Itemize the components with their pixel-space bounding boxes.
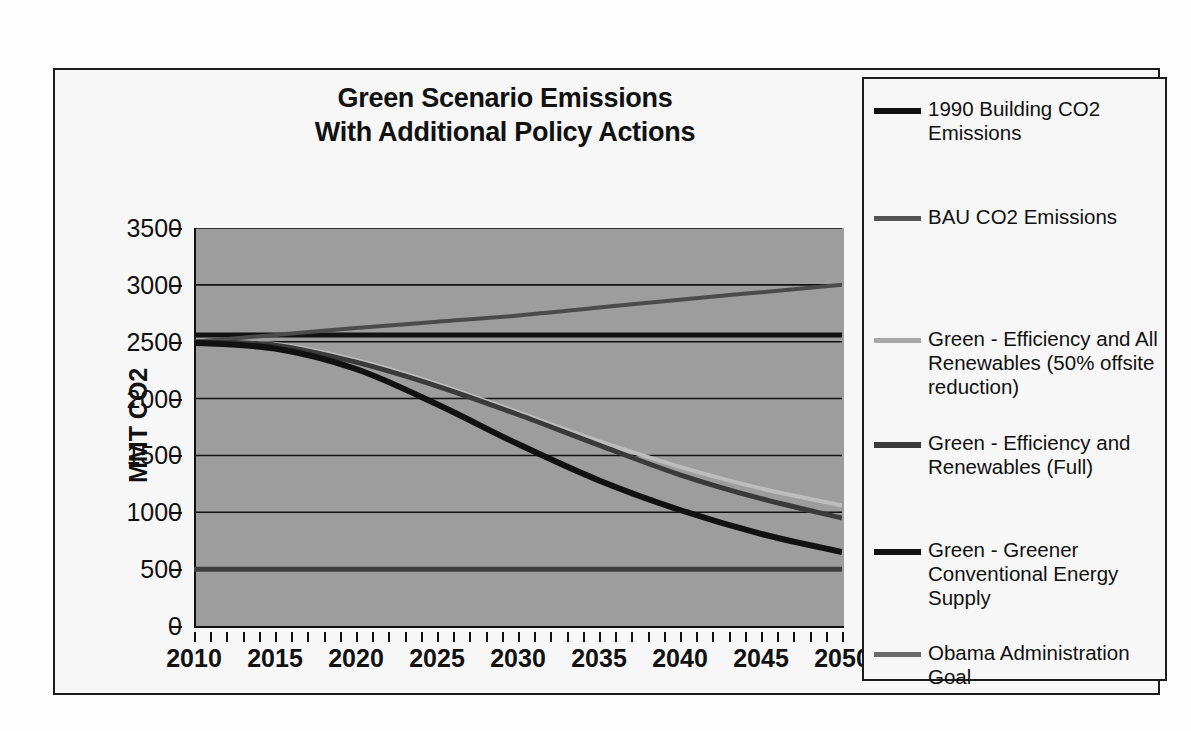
chart-title-line-2: With Additional Policy Actions xyxy=(205,116,805,150)
legend-item-2[interactable]: Green - Efficiency and All Renewables (5… xyxy=(874,327,1162,398)
x-minor-tick xyxy=(729,632,731,642)
y-tick-mark-2000 xyxy=(171,399,182,401)
x-minor-tick xyxy=(534,632,536,642)
y-tick-mark-1500 xyxy=(171,455,182,457)
y-tick-mark-2500 xyxy=(171,342,182,344)
x-minor-tick xyxy=(291,632,293,642)
x-minor-tick xyxy=(340,632,342,642)
x-minor-tick xyxy=(243,632,245,642)
chart-title-line-1: Green Scenario Emissions xyxy=(205,82,805,116)
y-tick-label-2000: 2000 xyxy=(92,384,182,413)
x-minor-tick xyxy=(599,632,601,642)
x-tick-label-2040: 2040 xyxy=(652,644,708,673)
y-tick-label-1000: 1000 xyxy=(92,498,182,527)
x-tick-label-2025: 2025 xyxy=(409,644,465,673)
x-minor-tick xyxy=(194,632,196,642)
legend-line-swatch-icon xyxy=(874,549,921,555)
y-tick-label-3000: 3000 xyxy=(92,270,182,299)
x-tick-label-2045: 2045 xyxy=(733,644,789,673)
x-tick-label-2030: 2030 xyxy=(490,644,546,673)
y-tick-label-3500: 3500 xyxy=(92,214,182,243)
legend-item-1[interactable]: BAU CO2 Emissions xyxy=(874,205,1162,229)
series-line xyxy=(194,343,842,552)
x-minor-tick xyxy=(648,632,650,642)
y-tick-label-1500: 1500 xyxy=(92,441,182,470)
x-minor-tick xyxy=(680,632,682,642)
legend-line-swatch-icon xyxy=(874,216,921,221)
x-minor-tick xyxy=(842,632,844,642)
y-tick-label-0: 0 xyxy=(92,612,182,641)
y-tick-label-2500: 2500 xyxy=(92,327,182,356)
legend-item-label: Green - Greener Conventional Energy Supp… xyxy=(928,538,1162,609)
y-tick-label-500: 500 xyxy=(92,555,182,584)
x-minor-tick xyxy=(372,632,374,642)
legend-item-label: 1990 Building CO2 Emissions xyxy=(928,97,1162,145)
series-line xyxy=(194,342,842,518)
x-minor-tick xyxy=(615,632,617,642)
legend-line-swatch-icon xyxy=(874,338,921,343)
x-tick-label-2015: 2015 xyxy=(247,644,303,673)
x-minor-tick xyxy=(469,632,471,642)
x-minor-tick xyxy=(405,632,407,642)
x-minor-tick xyxy=(631,632,633,642)
x-minor-tick xyxy=(259,632,261,642)
x-minor-tick xyxy=(826,632,828,642)
x-minor-tick xyxy=(696,632,698,642)
plot-series-svg xyxy=(194,228,842,626)
legend-item-label: Obama Administration Goal xyxy=(928,641,1162,689)
chart-legend: 1990 Building CO2 EmissionsBAU CO2 Emiss… xyxy=(862,77,1167,681)
x-minor-tick xyxy=(453,632,455,642)
series-line xyxy=(194,342,842,506)
chart-title: Green Scenario Emissions With Additional… xyxy=(205,82,805,150)
legend-line-swatch-icon xyxy=(874,442,921,448)
legend-line-swatch-icon xyxy=(874,652,921,657)
x-minor-tick xyxy=(810,632,812,642)
y-tick-mark-0 xyxy=(171,626,182,628)
x-minor-tick xyxy=(324,632,326,642)
x-minor-tick xyxy=(210,632,212,642)
x-minor-tick xyxy=(421,632,423,642)
x-minor-tick xyxy=(583,632,585,642)
x-minor-tick xyxy=(664,632,666,642)
x-minor-tick xyxy=(275,632,277,642)
x-tick-label-2035: 2035 xyxy=(571,644,627,673)
legend-line-swatch-icon xyxy=(874,108,921,114)
x-minor-tick xyxy=(388,632,390,642)
legend-item-3[interactable]: Green - Efficiency and Renewables (Full) xyxy=(874,431,1162,479)
x-minor-tick xyxy=(486,632,488,642)
legend-item-label: Green - Efficiency and All Renewables (5… xyxy=(928,327,1162,398)
x-minor-tick xyxy=(226,632,228,642)
x-axis-tick-labels: 201020152020202520302035204020452050 xyxy=(194,632,842,672)
x-minor-tick xyxy=(777,632,779,642)
legend-item-0[interactable]: 1990 Building CO2 Emissions xyxy=(874,97,1162,145)
x-minor-tick xyxy=(712,632,714,642)
y-tick-mark-500 xyxy=(171,569,182,571)
chart-frame: Green Scenario Emissions With Additional… xyxy=(53,68,1160,695)
y-axis-tick-labels: 3500300025002000150010005000 xyxy=(86,228,182,626)
y-tick-mark-3000 xyxy=(171,285,182,287)
x-minor-tick xyxy=(356,632,358,642)
y-tick-mark-1000 xyxy=(171,512,182,514)
x-minor-tick xyxy=(761,632,763,642)
x-minor-tick xyxy=(437,632,439,642)
legend-item-label: BAU CO2 Emissions xyxy=(928,205,1117,229)
x-minor-tick xyxy=(793,632,795,642)
plot-area-wrapper: MMT CO2 3500300025002000150010005000 201… xyxy=(194,228,842,626)
x-tick-label-2020: 2020 xyxy=(328,644,384,673)
legend-item-5[interactable]: Obama Administration Goal xyxy=(874,641,1162,689)
x-minor-tick xyxy=(745,632,747,642)
x-minor-tick xyxy=(550,632,552,642)
x-minor-tick xyxy=(567,632,569,642)
legend-item-4[interactable]: Green - Greener Conventional Energy Supp… xyxy=(874,538,1162,609)
y-tick-mark-3500 xyxy=(171,228,182,230)
x-tick-label-2010: 2010 xyxy=(166,644,222,673)
x-minor-tick xyxy=(307,632,309,642)
legend-item-label: Green - Efficiency and Renewables (Full) xyxy=(928,431,1162,479)
x-minor-tick xyxy=(502,632,504,642)
x-minor-tick xyxy=(518,632,520,642)
